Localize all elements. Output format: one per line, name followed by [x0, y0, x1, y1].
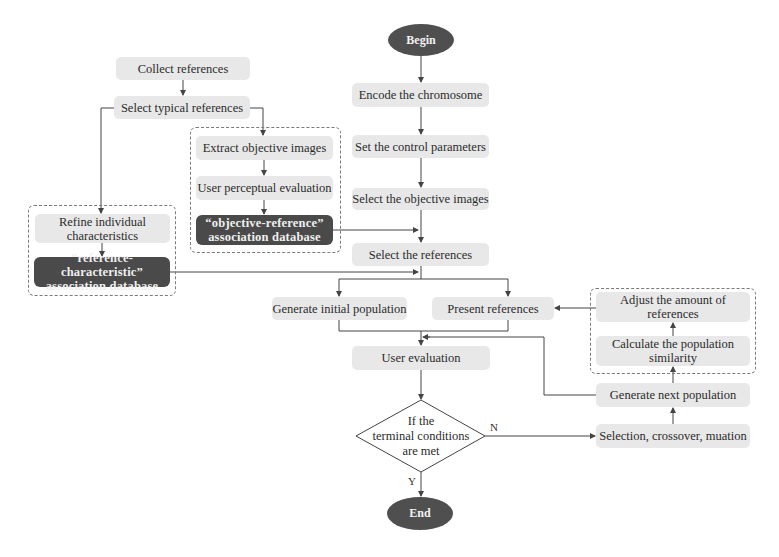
characteristic-db-line-1: “reference-characteristic”	[34, 251, 170, 279]
select-typical-references-step: Select typical references	[114, 96, 250, 119]
terminal-condition-decision: If the terminal conditions are met	[360, 414, 482, 459]
generate-initial-population-step: Generate initial population	[272, 297, 407, 320]
end-terminal: End	[387, 497, 453, 530]
characteristic-db-line-2: association database	[46, 279, 159, 293]
user-evaluation-step: User evaluation	[352, 346, 490, 370]
decision-line-2: terminal conditions	[360, 429, 482, 444]
reference-characteristic-database: “reference-characteristic” association d…	[34, 257, 170, 287]
set-control-parameters-step: Set the control parameters	[352, 135, 489, 158]
decision-line-1: If the	[360, 414, 482, 429]
select-references-step: Select the references	[352, 243, 489, 266]
generate-next-population-step: Generate next population	[596, 383, 750, 407]
encode-chromosome-step: Encode the chromosome	[352, 83, 489, 107]
extract-objective-images-step: Extract objective images	[196, 136, 333, 160]
no-branch-label: N	[490, 421, 498, 433]
present-references-step: Present references	[432, 297, 554, 320]
yes-branch-label: Y	[408, 475, 416, 487]
adjust-line-1: Adjust the amount of	[620, 293, 726, 307]
calc-line-1: Calculate the population	[612, 337, 734, 351]
adjust-line-2: references	[647, 307, 698, 321]
calculate-similarity-step: Calculate the population similarity	[596, 336, 750, 366]
calc-line-2: similarity	[649, 351, 697, 365]
objective-reference-database: “objective-reference” association databa…	[196, 215, 333, 245]
objective-db-line-1: “objective-reference”	[205, 216, 323, 230]
refine-line-2: characteristics	[67, 229, 138, 243]
refine-characteristics-step: Refine individual characteristics	[35, 214, 170, 243]
adjust-references-step: Adjust the amount of references	[596, 292, 750, 322]
select-objective-images-step: Select the objective images	[352, 188, 489, 210]
decision-line-3: are met	[360, 444, 482, 459]
collect-references-step: Collect references	[116, 57, 250, 80]
begin-terminal: Begin	[388, 24, 454, 56]
user-perceptual-evaluation-step: User perceptual evaluation	[196, 176, 333, 200]
selection-crossover-mutation-step: Selection, crossover, muation	[596, 424, 750, 448]
flowchart-canvas: Begin End Encode the chromosome Set the …	[0, 0, 779, 557]
objective-db-line-2: association database	[208, 230, 321, 244]
refine-line-1: Refine individual	[59, 215, 146, 229]
